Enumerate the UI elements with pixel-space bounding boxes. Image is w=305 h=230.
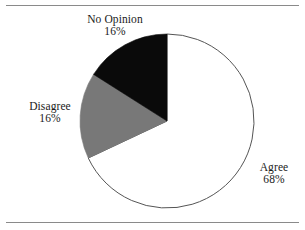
pie-chart-figure: No Opinion 16% Disagree 16% Agree 68% xyxy=(0,0,305,230)
pie-label-disagree-text: Disagree xyxy=(29,100,71,112)
pie-label-no-opinion-text: No Opinion xyxy=(87,13,143,25)
figure-bottom-rule xyxy=(6,222,299,223)
pie-label-agree: Agree 68% xyxy=(246,161,302,186)
pie-label-agree-value: 68% xyxy=(246,173,302,185)
pie-label-disagree-value: 16% xyxy=(8,112,92,124)
pie-label-agree-text: Agree xyxy=(260,161,289,173)
pie-label-no-opinion-value: 16% xyxy=(63,25,167,37)
pie-label-disagree: Disagree 16% xyxy=(8,100,92,125)
pie-label-no-opinion: No Opinion 16% xyxy=(63,13,167,38)
